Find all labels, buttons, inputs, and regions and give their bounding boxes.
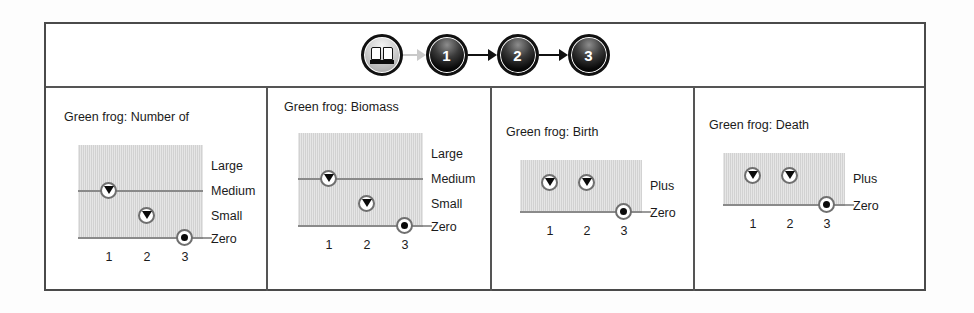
- marker-x1[interactable]: [541, 174, 558, 191]
- level-label-medium: Medium: [431, 173, 475, 186]
- level-label-large: Large: [211, 160, 243, 173]
- xtick-1: 1: [102, 251, 116, 264]
- triangle-down-icon: [362, 199, 372, 207]
- marker-x3[interactable]: [176, 229, 193, 246]
- simulation-results-figure: 1 2 3: [0, 0, 974, 313]
- triangle-down-icon: [142, 211, 152, 219]
- triangle-down-icon: [545, 178, 555, 186]
- level-label-zero: Zero: [853, 200, 879, 213]
- book-base: [370, 60, 394, 64]
- filled-dot-icon: [401, 222, 408, 229]
- chart-birth: Plus Zero 1 2 3: [520, 160, 685, 260]
- panel-birth: Green frog: Birth Plus Zero: [492, 88, 695, 291]
- panel-death: Green frog: Death Plus Zero: [695, 88, 924, 291]
- arrow-shaft: [468, 54, 488, 56]
- xtick-3: 3: [178, 251, 192, 264]
- panel-row: Green frog: Number of Large Medium Small…: [46, 88, 924, 291]
- arrow-shaft: [539, 54, 559, 56]
- chart-death: Plus Zero 1 2 3: [723, 153, 888, 253]
- xtick-3: 3: [820, 218, 834, 231]
- marker-x2[interactable]: [138, 207, 155, 224]
- panel-number-of: Green frog: Number of Large Medium Small…: [46, 88, 268, 291]
- marker-x2[interactable]: [358, 195, 375, 212]
- filled-dot-icon: [181, 234, 188, 241]
- xtick-2: 2: [140, 251, 154, 264]
- arrow-icon-2-to-3: [539, 49, 568, 61]
- xtick-2: 2: [783, 218, 797, 231]
- step-sequence-toolbar: 1 2 3: [46, 24, 924, 88]
- xtick-2: 2: [580, 225, 594, 238]
- step-node-2[interactable]: 2: [497, 34, 539, 76]
- marker-x1[interactable]: [100, 182, 117, 199]
- level-label-large: Large: [431, 148, 463, 161]
- book-page-left: [371, 47, 381, 60]
- level-label-zero: Zero: [431, 221, 457, 234]
- arrow-head: [559, 49, 568, 61]
- triangle-down-icon: [748, 171, 758, 179]
- step-node-2-label: 2: [513, 48, 521, 63]
- triangle-down-icon: [582, 178, 592, 186]
- book-page-right: [383, 47, 393, 60]
- gridline-medium: [298, 178, 423, 180]
- chart-biomass: Large Medium Small Zero 1 2 3: [298, 133, 473, 258]
- panel-title: Green frog: Death: [709, 118, 809, 132]
- xtick-2: 2: [360, 239, 374, 252]
- marker-x1[interactable]: [744, 167, 761, 184]
- gridline-medium: [78, 190, 203, 192]
- open-book-icon[interactable]: [361, 34, 403, 76]
- step-node-1-label: 1: [442, 48, 450, 63]
- marker-x3[interactable]: [818, 196, 835, 213]
- level-label-plus: Plus: [650, 180, 674, 193]
- level-label-zero: Zero: [211, 233, 237, 246]
- arrow-head: [417, 49, 426, 61]
- step-chain: 1 2 3: [361, 34, 610, 76]
- level-label-small: Small: [431, 198, 462, 211]
- triangle-down-icon: [785, 171, 795, 179]
- panel-title: Green frog: Biomass: [284, 100, 399, 114]
- figure-frame: 1 2 3: [44, 22, 926, 291]
- chart-number-of: Large Medium Small Zero 1: [78, 145, 248, 270]
- marker-x2[interactable]: [781, 167, 798, 184]
- marker-x2[interactable]: [578, 174, 595, 191]
- arrow-shaft: [403, 54, 417, 56]
- xtick-3: 3: [398, 239, 412, 252]
- triangle-down-icon: [324, 174, 334, 182]
- triangle-down-icon: [104, 186, 114, 194]
- step-node-3-label: 3: [584, 48, 592, 63]
- level-label-small: Small: [211, 210, 242, 223]
- step-node-3[interactable]: 3: [568, 34, 610, 76]
- marker-x3[interactable]: [396, 217, 413, 234]
- filled-dot-icon: [823, 201, 830, 208]
- panel-biomass: Green frog: Biomass Large Medium Small Z…: [268, 88, 492, 291]
- filled-dot-icon: [620, 208, 627, 215]
- marker-x1[interactable]: [320, 170, 337, 187]
- xtick-3: 3: [617, 225, 631, 238]
- marker-x3[interactable]: [615, 203, 632, 220]
- panel-title: Green frog: Number of: [64, 110, 189, 124]
- level-label-zero: Zero: [650, 207, 676, 220]
- xtick-1: 1: [543, 225, 557, 238]
- step-node-1[interactable]: 1: [426, 34, 468, 76]
- panel-title: Green frog: Birth: [506, 125, 598, 139]
- xtick-1: 1: [746, 218, 760, 231]
- level-label-medium: Medium: [211, 185, 255, 198]
- arrow-icon-1-to-2: [468, 49, 497, 61]
- level-label-plus: Plus: [853, 173, 877, 186]
- xtick-1: 1: [322, 239, 336, 252]
- book-glyph: [371, 47, 393, 64]
- arrow-head: [488, 49, 497, 61]
- arrow-icon-inactive: [403, 49, 426, 61]
